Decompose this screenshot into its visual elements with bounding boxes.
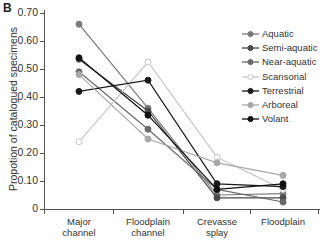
data-point-marker (280, 199, 286, 205)
legend-marker-icon (248, 74, 253, 79)
legend-marker-icon (248, 31, 253, 36)
legend-item-semi-aquatic (242, 45, 259, 50)
data-point-marker (214, 160, 220, 166)
legend-marker-icon (248, 116, 253, 121)
data-point-marker (145, 112, 151, 118)
data-point-marker (214, 195, 220, 201)
series-scansorial (76, 59, 286, 192)
data-point-marker (280, 181, 286, 187)
data-point-marker (76, 88, 82, 94)
axes (40, 10, 320, 214)
series-arboreal (76, 72, 286, 179)
line-chart: B Propotion of catalogued specimens 0 0.… (0, 0, 329, 245)
data-point-marker (76, 55, 82, 61)
data-point-marker (145, 59, 151, 65)
legend-marker-icon (248, 88, 253, 93)
legend (242, 31, 259, 121)
legend-item-terrestrial (242, 88, 259, 93)
series-line (79, 59, 283, 198)
legend-label: Arboreal (262, 99, 298, 110)
data-point-marker (76, 21, 82, 27)
legend-marker-icon (248, 59, 253, 64)
legend-item-scansorial (242, 74, 259, 79)
legend-item-aquatic (242, 31, 259, 36)
legend-item-near-aquatic (242, 59, 259, 64)
series-near-aquatic (76, 69, 286, 205)
series-line (79, 80, 283, 186)
data-point-marker (76, 139, 82, 145)
series-terrestrial (76, 77, 286, 189)
legend-label: Volant (262, 113, 288, 124)
legend-label: Aquatic (262, 28, 294, 39)
data-point-marker (280, 172, 286, 178)
series-semi-aquatic (76, 56, 286, 201)
legend-label: Semi-aquatic (262, 42, 317, 53)
legend-item-arboreal (242, 102, 259, 107)
data-point-marker (145, 136, 151, 142)
data-point-marker (76, 72, 82, 78)
legend-item-volant (242, 116, 259, 121)
legend-label: Scansorial (262, 71, 306, 82)
data-point-marker (145, 77, 151, 83)
legend-marker-icon (248, 45, 253, 50)
data-point-marker (214, 186, 220, 192)
series-volant (76, 55, 286, 193)
legend-label: Near-aquatic (262, 56, 316, 67)
series-line (79, 62, 283, 189)
data-point-marker (145, 126, 151, 132)
legend-marker-icon (248, 102, 253, 107)
legend-label: Terrestrial (262, 85, 304, 96)
